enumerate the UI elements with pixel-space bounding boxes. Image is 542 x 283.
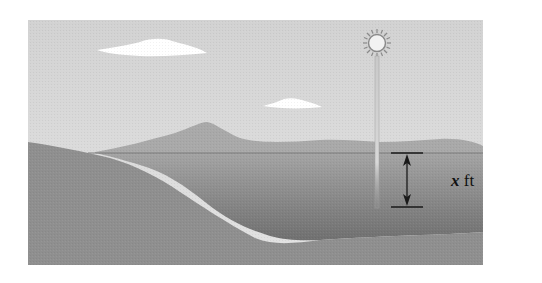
depth-unit: ft <box>460 171 475 190</box>
texture-overlay <box>28 20 483 265</box>
lake-depth-diagram: x ft <box>0 0 542 283</box>
depth-variable: x <box>450 171 460 190</box>
depth-label: x ft <box>450 171 474 190</box>
pole <box>375 56 379 208</box>
